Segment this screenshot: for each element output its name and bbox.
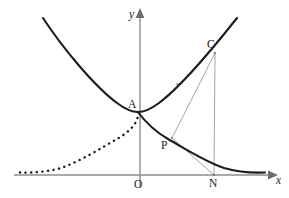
x-axis-label: x: [276, 175, 281, 187]
point-label-a: A: [128, 99, 136, 111]
y-axis-label: y: [129, 9, 134, 21]
point-marker-p: [171, 137, 173, 139]
origin-label: O: [134, 179, 142, 191]
diagram-canvas: [0, 0, 289, 198]
figure-container: A C P N O s y x: [0, 0, 289, 198]
point-label-p: P: [161, 140, 167, 152]
segment-label-s: s: [176, 81, 179, 89]
point-marker-n: [213, 174, 215, 176]
helper-line-pc: [172, 53, 215, 138]
helper-line-cn: [214, 53, 215, 175]
point-marker-a: [137, 111, 139, 113]
y-axis-arrowhead: [136, 8, 145, 18]
decay-mirror-curve: [20, 112, 138, 173]
point-marker-c: [214, 52, 216, 54]
point-label-c: C: [207, 39, 215, 51]
point-label-n: N: [209, 178, 217, 190]
helper-line-pn: [172, 138, 214, 175]
